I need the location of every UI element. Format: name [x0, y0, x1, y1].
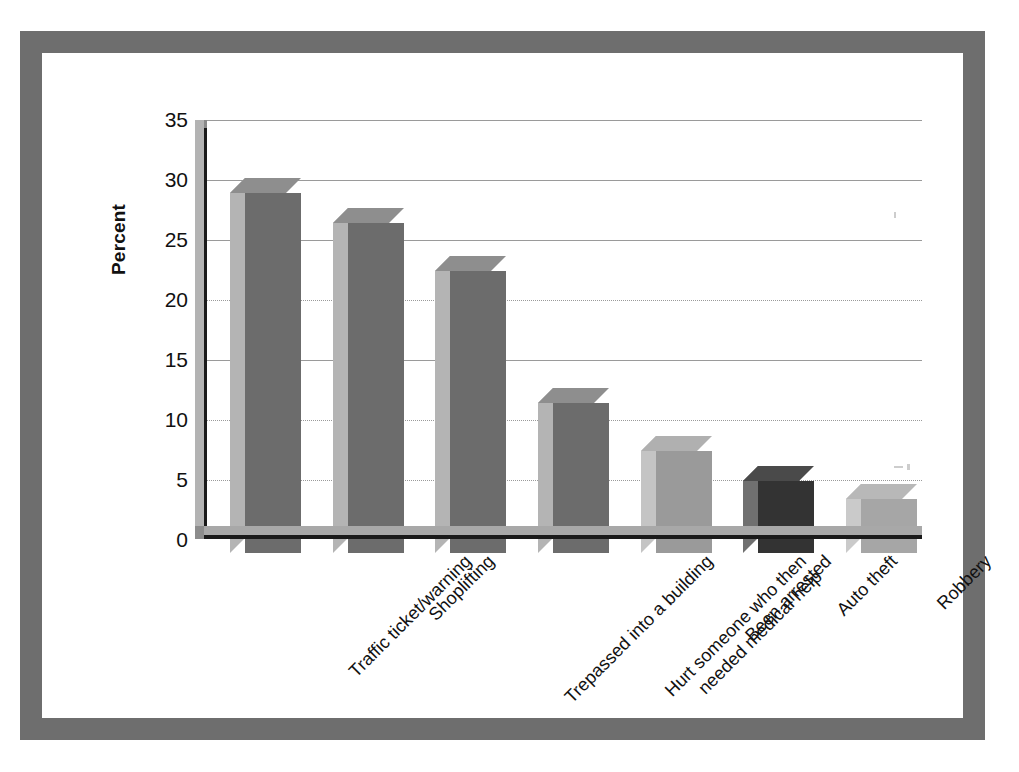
bar-front-face: [348, 223, 404, 553]
bar-4: [553, 390, 609, 540]
bar-top-face: [846, 484, 917, 499]
y-tick-15: 15: [148, 348, 188, 372]
x-label-line1: Auto theft: [833, 551, 902, 620]
bar-side-face: [333, 208, 348, 553]
x-axis-line: [204, 535, 922, 539]
bar-front-face: [245, 193, 301, 553]
gridline-20: [204, 300, 922, 301]
gridline-25: [204, 240, 922, 241]
chart-floor-side: [195, 526, 204, 539]
bar-2: [348, 210, 404, 540]
x-label-6: Auto theft: [833, 551, 903, 621]
x-label-line1: Robbery: [933, 551, 995, 613]
x-label-7: Robbery: [933, 551, 997, 615]
bar-top-face: [435, 256, 506, 271]
scan-speck: [894, 212, 896, 218]
bar-side-face: [435, 256, 450, 553]
bar-front-face: [450, 271, 506, 553]
x-axis-labels: Traffic ticket/warningShopliftingTrepass…: [204, 545, 964, 745]
bar-top-face: [230, 178, 301, 193]
bar-1: [245, 180, 301, 540]
y-tick-0: 0: [148, 528, 188, 552]
scan-speck: [894, 466, 903, 468]
bar-5: [656, 438, 712, 540]
gridline-30: [204, 180, 922, 181]
y-tick-35: 35: [148, 108, 188, 132]
chart-page: Percent 35 30: [0, 0, 1019, 772]
bar-top-face: [641, 436, 712, 451]
bar-front-face: [758, 481, 814, 553]
x-label-1: Traffic ticket/warning: [345, 551, 477, 683]
bar-top-face: [743, 466, 814, 481]
plot-area: 35 30 25 20 15 10 5 0: [204, 108, 922, 542]
y-axis-side: [195, 120, 204, 535]
chart-floor-top: [195, 526, 922, 535]
gridline-35: [204, 120, 922, 121]
y-axis-line: [204, 128, 207, 535]
y-tick-30: 30: [148, 168, 188, 192]
scan-speck: [907, 464, 910, 470]
bar-3: [450, 258, 506, 540]
y-tick-25: 25: [148, 228, 188, 252]
bar-top-face: [333, 208, 404, 223]
y-tick-5: 5: [148, 468, 188, 492]
bar-top-face: [538, 388, 609, 403]
y-tick-10: 10: [148, 408, 188, 432]
y-tick-20: 20: [148, 288, 188, 312]
chart-panel: Percent 35 30: [42, 53, 963, 718]
y-axis-title: Percent: [108, 204, 130, 275]
bar-side-face: [230, 178, 245, 553]
chart-frame-border: Percent 35 30: [20, 31, 985, 740]
x-label-line1: Traffic ticket/warning: [345, 551, 475, 681]
gridline-15: [204, 360, 922, 361]
